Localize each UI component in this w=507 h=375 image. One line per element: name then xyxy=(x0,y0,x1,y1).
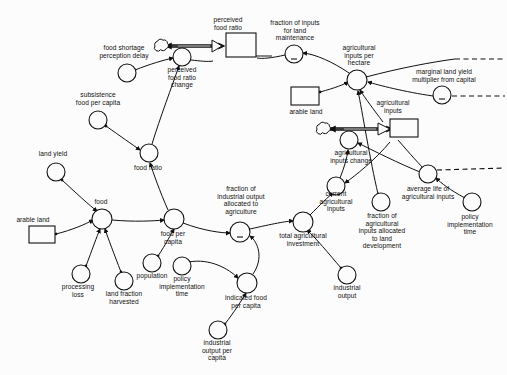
node-food[interactable] xyxy=(91,208,113,230)
valve-perceived-food-ratio xyxy=(212,40,222,52)
link-pfrchange-lower-tail xyxy=(191,60,213,61)
node-total-agricultural-investment[interactable] xyxy=(292,211,314,233)
node-stock-arable-land-left[interactable] xyxy=(28,226,56,245)
link-indicatedfood-to-fractionio xyxy=(250,236,259,274)
link-fractionio-to-investment xyxy=(250,221,293,229)
link-food-to-foodpercapita xyxy=(112,220,164,221)
stock-rect-group xyxy=(29,33,418,243)
link-currentinputs-to-aichange xyxy=(340,150,348,178)
link-aginputs-to-aiph xyxy=(360,90,383,122)
node-policy-implementation-time-right[interactable] xyxy=(462,192,482,212)
node-average-life-of-agricultural-inputs[interactable] xyxy=(418,164,438,184)
link-processingloss-to-food xyxy=(86,229,100,266)
node-perceived-food-ratio-change[interactable] xyxy=(172,47,192,67)
node-stock-arable-land-top[interactable] xyxy=(290,86,320,106)
cloud-source-agricultural-inputs xyxy=(315,122,331,136)
link-delay-to-pfrchange xyxy=(135,58,173,70)
link-policytimeright-to-avglife xyxy=(436,178,465,198)
node-policy-implementation-time-left[interactable] xyxy=(172,256,192,276)
link-fractionld-to-aiph xyxy=(358,91,378,194)
link-foodpercapita-to-fractionio xyxy=(183,223,230,233)
link-avglife-to-aichange xyxy=(358,143,420,172)
link-foodpercapita-to-foodratio xyxy=(150,163,168,210)
offpage-dashed-group xyxy=(437,59,505,170)
link-industrialoutput-to-investment xyxy=(307,230,341,268)
node-agricultural-inputs-change[interactable] xyxy=(339,130,359,150)
node-fraction-industrial-output-agriculture[interactable] xyxy=(229,221,251,243)
node-indicated-food-per-capita[interactable] xyxy=(236,272,258,294)
node-industrial-output-per-capita[interactable] xyxy=(208,320,228,340)
node-stock-agricultural-inputs[interactable] xyxy=(389,118,419,138)
link-investment-to-currentinputs xyxy=(310,193,333,215)
cloud-source-perceived-food-ratio xyxy=(153,39,169,53)
link-foodratio-to-pfrchange xyxy=(152,66,179,144)
link-iopc-to-indicatedfood xyxy=(225,293,246,324)
node-population[interactable] xyxy=(142,253,162,273)
node-subsistence-food-per-capita[interactable] xyxy=(88,110,108,130)
node-food-shortage-perception-delay[interactable] xyxy=(117,63,137,83)
link-landyield-to-food xyxy=(62,180,97,211)
link-policytimeleft-to-indicatedfood xyxy=(189,261,238,278)
variable-circle-group xyxy=(47,45,481,339)
diagram-canvas: perceived food ratio arable land agricul… xyxy=(0,0,507,375)
node-fraction-ag-inputs-land-development[interactable] xyxy=(371,192,391,212)
link-arablelandtop-to-aiph xyxy=(320,82,348,92)
link-subsistence-to-foodratio xyxy=(106,126,140,150)
node-land-yield[interactable] xyxy=(46,162,66,182)
node-food-ratio[interactable] xyxy=(139,143,159,163)
link-aiph-to-fractioninputs xyxy=(303,53,349,73)
dashed-avglife-right xyxy=(437,168,505,170)
node-stock-perceived-food-ratio[interactable] xyxy=(225,32,257,58)
node-industrial-output[interactable] xyxy=(337,265,357,285)
link-aiph-from-right-upper xyxy=(366,59,455,77)
node-current-agricultural-inputs[interactable] xyxy=(326,176,346,196)
node-land-fraction-harvested[interactable] xyxy=(114,271,134,291)
node-agricultural-inputs-per-hectare[interactable] xyxy=(346,69,368,91)
link-arableland-to-food xyxy=(56,220,93,234)
node-processing-loss[interactable] xyxy=(71,264,91,284)
node-fraction-of-inputs-for-land-maintenance[interactable] xyxy=(284,44,304,64)
node-food-per-capita[interactable] xyxy=(163,208,185,230)
link-mlymc-to-aiph xyxy=(368,82,433,96)
link-population-to-foodpercapita xyxy=(158,229,174,256)
node-marginal-land-yield-multiplier[interactable] xyxy=(432,85,452,105)
link-landfraction-to-food xyxy=(105,229,121,272)
